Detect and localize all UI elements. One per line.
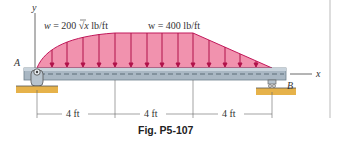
figure-caption: Fig. P5-107 (138, 124, 194, 136)
load-right-label: w = 400 lb/ft (148, 20, 200, 31)
support-b-label: B (287, 80, 293, 91)
beam-diagram: y x A B w = 200 √x lb/ft w = 400 lb/ft (0, 0, 342, 147)
load-left-label: w = 200 √x lb/ft (44, 20, 108, 31)
distributed-load (37, 33, 272, 68)
dimension-3: 4 ft (222, 108, 236, 119)
x-axis-label: x (315, 68, 321, 79)
y-axis-label: y (31, 2, 37, 13)
dimension-1: 4 ft (66, 108, 80, 119)
dimension-2: 4 ft (144, 108, 158, 119)
beam-highlight (24, 68, 286, 71)
support-a-label: A (13, 57, 21, 68)
